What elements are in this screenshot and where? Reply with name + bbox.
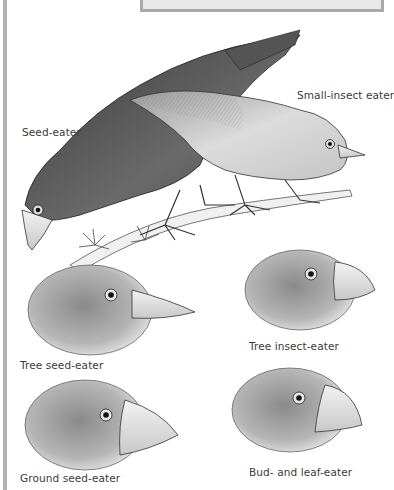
label-bud-and-leaf-eater: Bud- and leaf-eater: [249, 466, 352, 478]
label-tree-seed-eater: Tree seed-eater: [20, 359, 103, 371]
label-ground-seed-eater: Ground seed-eater: [20, 472, 120, 484]
ground-seed-eater-head: [25, 380, 178, 470]
tree-insect-eater-head: [245, 250, 375, 330]
label-tree-insect-eater: Tree insect-eater: [249, 340, 339, 352]
bud-and-leaf-eater-head: [232, 368, 362, 452]
label-small-insect-eater: Small-insect eater: [297, 89, 394, 101]
label-seed-eater: Seed-eater: [22, 126, 81, 138]
tree-seed-eater-head: [28, 265, 195, 355]
